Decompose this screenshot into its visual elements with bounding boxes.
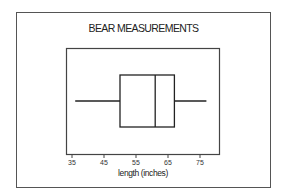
iqr-box — [120, 75, 174, 127]
x-tick-label: 35 — [68, 159, 76, 166]
x-tick-label: 75 — [196, 159, 204, 166]
x-axis-label: length (inches) — [66, 168, 220, 178]
box-plot — [75, 75, 206, 127]
boxplot-canvas: 3545556575 — [0, 0, 283, 196]
x-axis-ticks: 3545556575 — [68, 155, 204, 167]
x-tick-label: 55 — [132, 159, 140, 166]
x-tick-label: 45 — [100, 159, 108, 166]
x-tick-label: 65 — [164, 159, 172, 166]
